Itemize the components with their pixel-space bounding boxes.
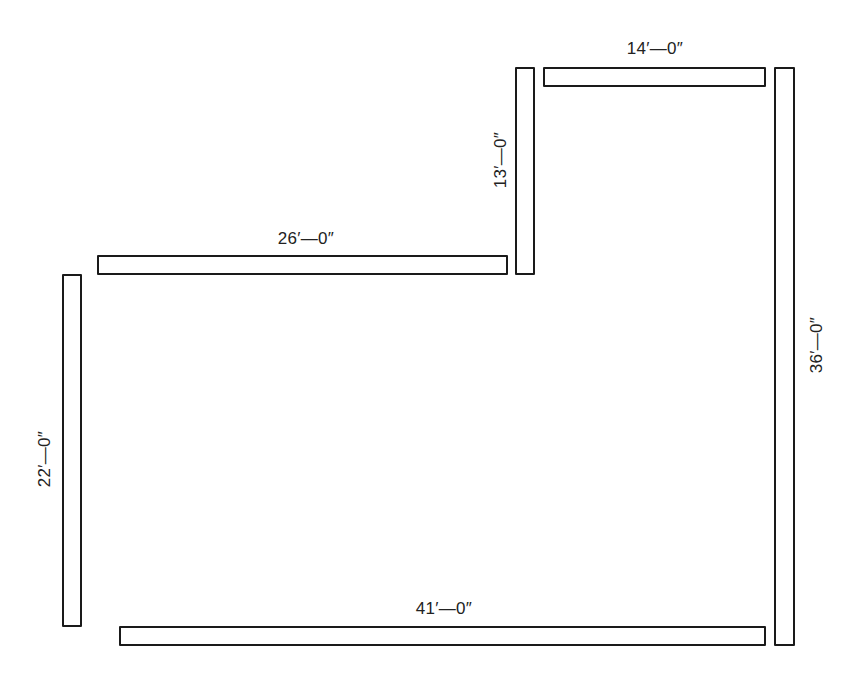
dimension-label-inner-vertical: 13′—0″ [492,132,509,188]
dimension-label-left: 22′—0″ [36,431,53,487]
wall-inner-vertical [515,67,535,275]
wall-middle-horizontal [97,255,508,275]
wall-right [774,67,795,646]
dimension-label-top-right: 14′—0″ [627,40,683,57]
wall-bottom [119,626,766,646]
dimension-label-middle-horizontal: 26′—0″ [278,230,334,247]
wall-top-right [543,67,766,87]
floor-plan-diagram: 14′—0″ 13′—0″ 26′—0″ 22′—0″ 41′—0″ 36′—0… [0,0,859,680]
dimension-label-right: 36′—0″ [808,317,825,373]
wall-left [62,274,82,627]
dimension-label-bottom: 41′—0″ [416,600,472,617]
